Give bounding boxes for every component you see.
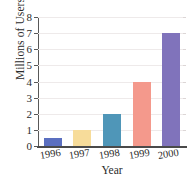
y-tick-label: 4 <box>27 76 33 87</box>
y-tick-mark <box>34 33 38 34</box>
y-tick-label: 3 <box>27 92 33 103</box>
bar-1999 <box>133 82 151 147</box>
y-tick-mark <box>34 98 38 99</box>
y-tick-right <box>183 65 186 66</box>
y-tick-label: 1 <box>27 124 33 135</box>
x-tick-label-1999: 1999 <box>128 147 150 161</box>
x-tick-label-2000: 2000 <box>157 147 179 161</box>
y-tick-label: 7 <box>27 28 33 39</box>
y-tick-right <box>183 49 186 50</box>
y-tick-right <box>183 33 186 34</box>
bar-1998 <box>103 114 121 146</box>
x-tick-label-1996: 1996 <box>39 147 61 161</box>
y-tick-mark <box>34 82 38 83</box>
y-tick-mark <box>34 49 38 50</box>
y-tick-mark <box>34 65 38 66</box>
y-tick-mark <box>34 114 38 115</box>
y-tick-mark <box>34 146 38 147</box>
y-tick-right <box>183 130 186 131</box>
y-tick-right <box>183 17 186 18</box>
plot-area: 012345678 19961997199819992000 <box>38 17 186 146</box>
x-tick-label-1998: 1998 <box>98 147 120 161</box>
y-tick-label: 6 <box>27 44 33 55</box>
chart-title-cropped <box>0 0 191 6</box>
y-tick-right <box>183 114 186 115</box>
x-axis-title: Year <box>38 164 186 177</box>
y-tick-label: 8 <box>27 12 33 23</box>
bar-2000 <box>162 33 180 146</box>
y-tick-mark <box>34 130 38 131</box>
bar-1997 <box>73 130 91 146</box>
x-tick-label-1997: 1997 <box>68 147 90 161</box>
y-tick-mark <box>34 17 38 18</box>
gridline <box>38 17 186 18</box>
y-tick-label: 5 <box>27 60 33 71</box>
y-tick-right <box>183 82 186 83</box>
y-tick-right <box>183 98 186 99</box>
bar-chart: Millions of Users 012345678 199619971998… <box>0 0 191 187</box>
bar-1996 <box>44 138 62 146</box>
y-tick-label: 0 <box>27 141 33 152</box>
y-axis-title: Millions of Users <box>13 0 27 93</box>
y-tick-label: 2 <box>27 108 33 119</box>
